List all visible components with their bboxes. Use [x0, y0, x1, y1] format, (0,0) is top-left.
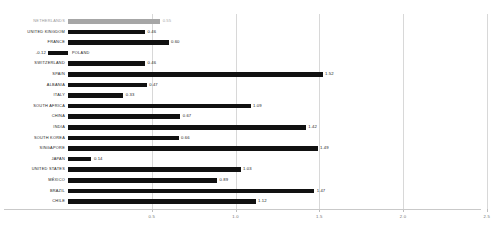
- bar-row: CHILE1.12: [0, 196, 487, 207]
- bar: [68, 199, 256, 204]
- category-label: FRANCE: [0, 37, 65, 48]
- value-label: 0.60: [171, 37, 180, 48]
- category-label: POLAND: [72, 48, 90, 59]
- category-label: CHINA: [0, 111, 65, 122]
- value-label: 1.47: [317, 186, 326, 197]
- bar: [48, 51, 68, 56]
- bar: [68, 178, 217, 183]
- bar: [68, 72, 323, 77]
- value-label: 0.47: [149, 80, 158, 91]
- x-axis-tick-label: 1.0: [221, 214, 251, 219]
- value-label: -0.12: [26, 48, 46, 59]
- bar: [68, 136, 179, 141]
- bar-row: SOUTH AFRICA1.09: [0, 101, 487, 112]
- category-label: MÉXICO: [0, 175, 65, 186]
- bar: [68, 157, 91, 162]
- value-label: 1.09: [253, 101, 262, 112]
- bar-row: SPAIN1.52: [0, 69, 487, 80]
- value-label: 1.42: [308, 122, 317, 133]
- bar: [68, 93, 123, 98]
- category-label: UNITED KINGDOM: [0, 27, 65, 38]
- value-label: 0.33: [126, 90, 135, 101]
- category-label: NETHERLANDS: [0, 16, 65, 27]
- value-label: 0.46: [148, 58, 157, 69]
- bar: [68, 189, 314, 194]
- bar: [68, 40, 169, 45]
- bar-row: ITALY0.33: [0, 90, 487, 101]
- bar-row: UNITED STATES1.03: [0, 164, 487, 175]
- category-label: INDIA: [0, 122, 65, 133]
- bar: [68, 19, 160, 24]
- value-label: 0.46: [148, 27, 157, 38]
- bar: [68, 30, 145, 35]
- value-label: 1.49: [320, 143, 329, 154]
- bar-row: POLAND-0.12: [0, 48, 487, 59]
- category-label: SPAIN: [0, 69, 65, 80]
- bar-row: MÉXICO0.89: [0, 175, 487, 186]
- bar-row: SOUTH KOREA0.66: [0, 133, 487, 144]
- value-label: 0.66: [181, 133, 190, 144]
- bar: [68, 61, 145, 66]
- bar-row: SWITZERLAND0.46: [0, 58, 487, 69]
- bar: [68, 83, 147, 88]
- x-axis-tick-label: 2.5: [472, 214, 495, 219]
- bar-row: INDIA1.42: [0, 122, 487, 133]
- bar-row: CHINA0.67: [0, 111, 487, 122]
- category-label: SOUTH KOREA: [0, 133, 65, 144]
- category-label: BRAZIL: [0, 186, 65, 197]
- x-axis-tick-label: 0.5: [137, 214, 167, 219]
- bar: [68, 167, 241, 172]
- bar: [68, 146, 318, 151]
- value-label: 0.55: [163, 16, 172, 27]
- value-label: 1.03: [243, 164, 252, 175]
- bar-row: NETHERLANDS0.55: [0, 16, 487, 27]
- value-label: 0.67: [183, 111, 192, 122]
- x-axis-line: [4, 209, 481, 210]
- value-label: 0.14: [94, 154, 103, 165]
- category-label: UNITED STATES: [0, 164, 65, 175]
- value-label: 1.12: [258, 196, 267, 207]
- bar-row: SINGAPORE1.49: [0, 143, 487, 154]
- bar-row: JAPAN0.14: [0, 154, 487, 165]
- bar: [68, 125, 306, 130]
- value-label: 0.89: [220, 175, 229, 186]
- bar-row: FRANCE0.60: [0, 37, 487, 48]
- category-label: ITALY: [0, 90, 65, 101]
- category-label: JAPAN: [0, 154, 65, 165]
- bar-row: ALBANIA0.47: [0, 80, 487, 91]
- value-label: 1.52: [325, 69, 334, 80]
- category-label: CHILE: [0, 196, 65, 207]
- bar-row: UNITED KINGDOM0.46: [0, 27, 487, 38]
- bar: [68, 104, 251, 109]
- bar: [68, 114, 180, 119]
- bar-row: BRAZIL1.47: [0, 186, 487, 197]
- category-label: SINGAPORE: [0, 143, 65, 154]
- category-label: SWITZERLAND: [0, 58, 65, 69]
- x-axis-tick-label: 1.5: [304, 214, 334, 219]
- category-label: SOUTH AFRICA: [0, 101, 65, 112]
- x-axis-tick-label: 2.0: [388, 214, 418, 219]
- x-axis-tick: [487, 209, 488, 212]
- category-label: ALBANIA: [0, 80, 65, 91]
